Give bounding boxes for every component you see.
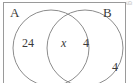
margin-text-artifact: g <box>127 1 134 5</box>
set-a-label: A <box>10 6 19 19</box>
set-b-label: B <box>103 6 112 19</box>
venn-diagram-figure: A B 24 x 4 4 g <box>0 0 134 83</box>
region-value-intersection: x <box>61 37 66 49</box>
region-value-outside-sets: 4 <box>112 61 118 73</box>
region-value-a-only: 24 <box>22 37 34 49</box>
region-value-b-only: 4 <box>83 37 89 49</box>
